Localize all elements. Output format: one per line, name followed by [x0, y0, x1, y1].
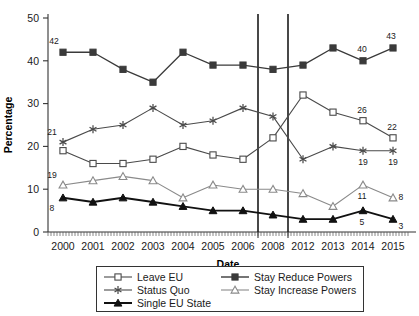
legend-item-label: Stay Reduce Powers: [254, 271, 352, 283]
legend-item-status-quo[interactable]: Status Quo: [103, 284, 212, 296]
marker-filled-square: [120, 66, 126, 72]
open-square-marker: [270, 135, 276, 141]
marker-asterisk: [60, 138, 67, 146]
open-square-marker: [300, 92, 306, 98]
open-square-marker: [115, 274, 121, 280]
data-point-label: 8: [399, 192, 404, 202]
legend-item-label: Stay Increase Powers: [254, 284, 356, 296]
open-triangle-marker: [359, 181, 367, 188]
x-tick-label: 2006: [231, 240, 255, 252]
filled-square-marker: [90, 49, 96, 55]
open-triangle-marker: [179, 194, 187, 201]
legend-marker-asterisk: [103, 284, 133, 296]
legend-item-stay-reduce-powers[interactable]: Stay Reduce Powers: [220, 271, 357, 283]
filled-square-marker: [360, 58, 366, 64]
filled-square-marker: [120, 66, 126, 72]
marker-open-triangle: [209, 181, 217, 188]
data-point-label: 21: [47, 127, 57, 137]
data-point-label: 26: [357, 105, 367, 115]
marker-filled-square: [232, 274, 238, 280]
legend-item-leave-eu[interactable]: Leave EU: [103, 271, 212, 283]
open-square-marker: [90, 160, 96, 166]
marker-filled-square: [150, 79, 156, 85]
y-tick-label: 10: [27, 183, 39, 195]
marker-open-square: [240, 156, 246, 162]
open-square-marker: [360, 118, 366, 124]
series-line: [63, 176, 393, 206]
x-tick-label: 2008: [261, 240, 285, 252]
legend-item-single-eu-state[interactable]: Single EU State: [103, 297, 212, 309]
line-chart-plot: 0102030405020002001200220032004200520062…: [0, 0, 419, 270]
marker-open-square: [150, 156, 156, 162]
x-tick-label: 2005: [201, 240, 225, 252]
marker-filled-square: [180, 49, 186, 55]
legend-item-stay-increase-powers[interactable]: Stay Increase Powers: [220, 284, 357, 296]
marker-open-square: [115, 274, 121, 280]
marker-asterisk: [240, 104, 247, 112]
data-point-label: 19: [47, 170, 57, 180]
chart-series-group: [59, 45, 397, 222]
open-square-marker: [150, 156, 156, 162]
marker-open-triangle: [119, 173, 127, 180]
open-square-marker: [180, 143, 186, 149]
marker-open-triangle: [359, 181, 367, 188]
marker-asterisk: [150, 104, 157, 112]
filled-square-marker: [390, 45, 396, 51]
data-point-label: 5: [360, 217, 365, 227]
marker-filled-square: [390, 45, 396, 51]
x-axis-ticks: 2000200120022003200420052006200820122013…: [48, 232, 408, 252]
marker-open-square: [60, 148, 66, 154]
y-axis-title: Percentage: [2, 97, 14, 154]
marker-filled-square: [360, 58, 366, 64]
filled-square-marker: [270, 66, 276, 72]
data-point-label: 19: [358, 157, 368, 167]
x-tick-label: 2000: [51, 240, 75, 252]
filled-square-marker: [150, 79, 156, 85]
y-tick-label: 40: [27, 55, 39, 67]
chart-legend: Leave EUStay Reduce PowersStatus QuoStay…: [96, 266, 364, 312]
series-single-eu-state: [59, 194, 397, 222]
series-status-quo: [60, 104, 397, 163]
legend-marker-filled-triangle: [103, 297, 133, 309]
y-tick-label: 50: [27, 12, 39, 24]
open-triangle-marker: [329, 203, 337, 210]
open-triangle-marker: [119, 173, 127, 180]
legend-marker-filled-square: [220, 271, 250, 283]
open-square-marker: [240, 156, 246, 162]
series-line: [63, 48, 393, 82]
marker-open-square: [120, 160, 126, 166]
data-point-label: 8: [50, 203, 55, 213]
marker-filled-square: [330, 45, 336, 51]
marker-filled-square: [90, 49, 96, 55]
marker-open-square: [390, 135, 396, 141]
open-square-marker: [60, 148, 66, 154]
legend-marker-open-square: [103, 271, 133, 283]
marker-open-triangle: [179, 194, 187, 201]
filled-square-marker: [180, 49, 186, 55]
open-square-marker: [120, 160, 126, 166]
marker-open-triangle: [389, 194, 397, 201]
data-point-label: 3: [399, 221, 404, 231]
marker-filled-square: [300, 62, 306, 68]
legend-marker-open-triangle: [220, 284, 250, 296]
marker-open-square: [360, 118, 366, 124]
data-point-label: 22: [387, 122, 397, 132]
series-line: [63, 198, 393, 219]
x-tick-label: 2003: [141, 240, 165, 252]
marker-open-square: [330, 109, 336, 115]
series-line: [63, 95, 393, 163]
x-tick-label: 2004: [171, 240, 195, 252]
legend-item-label: Single EU State: [137, 297, 211, 309]
legend-item-label: Status Quo: [137, 284, 190, 296]
x-tick-label: 2013: [321, 240, 345, 252]
open-triangle-marker: [389, 194, 397, 201]
marker-filled-square: [270, 66, 276, 72]
data-point-label: 19: [388, 157, 398, 167]
series-stay-increase-powers: [59, 173, 397, 210]
open-square-marker: [210, 152, 216, 158]
reference-lines: [258, 14, 288, 238]
x-tick-label: 2014: [351, 240, 375, 252]
filled-square-marker: [210, 62, 216, 68]
y-axis-ticks: 01020304050: [27, 12, 48, 238]
filled-triangle-marker: [359, 207, 367, 214]
